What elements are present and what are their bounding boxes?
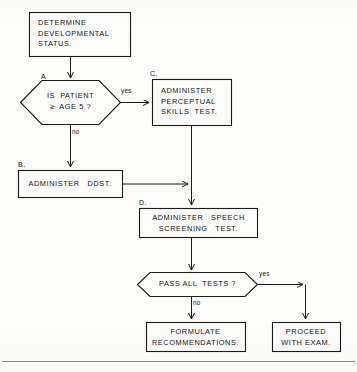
start-box-text: DETERMINE DEVELOPMENTAL STATUS. bbox=[38, 18, 110, 50]
process-d-step-label: D. bbox=[139, 198, 147, 207]
process-proceed-text: PROCEED WITH EXAM. bbox=[273, 327, 339, 348]
edge-label-a-yes: yes bbox=[121, 87, 132, 94]
edge-label-a-no: no bbox=[72, 128, 80, 135]
edge-label-pass-yes: yes bbox=[259, 270, 270, 277]
process-formulate-text: FORMULATE RECOMMENDATIONS. bbox=[147, 327, 244, 348]
process-c-text: ADMINISTER PERCEPTUAL SKILLS TEST. bbox=[161, 86, 217, 118]
process-b-text: ADMINISTER DDST. bbox=[19, 179, 121, 190]
process-b-step-label: B. bbox=[18, 160, 26, 169]
edge-label-pass-no: no bbox=[193, 299, 201, 306]
decision-a-text: IS PATIENT ≥ AGE 5 ? bbox=[28, 91, 113, 112]
process-d-text: ADMINISTER SPEECH SCREENING TEST. bbox=[140, 213, 257, 234]
flowchart-canvas: DETERMINE DEVELOPMENTAL STATUS. A IS PAT… bbox=[0, 0, 357, 372]
decision-a-step-label: A bbox=[41, 72, 46, 81]
process-c-step-label: C. bbox=[150, 69, 158, 78]
decision-pass-text: PASS ALL TESTS ? bbox=[143, 279, 252, 290]
